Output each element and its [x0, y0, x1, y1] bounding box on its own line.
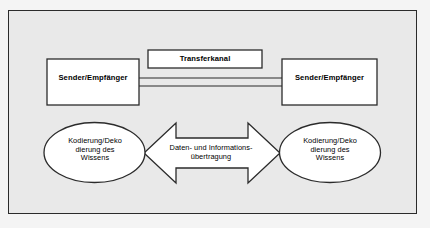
bidirectional-transfer-arrow[interactable]	[144, 123, 280, 183]
diagram-page: Transferkanal Sender/Empfänger Sender/Em…	[0, 0, 430, 228]
kodierung-ellipse-left[interactable]	[44, 123, 145, 183]
sender-empfaenger-right-box[interactable]	[282, 59, 377, 105]
sender-empfaenger-left-box[interactable]	[47, 59, 139, 105]
kodierung-ellipse-right[interactable]	[280, 123, 381, 183]
diagram-canvas	[0, 0, 430, 228]
transferkanal-box[interactable]	[148, 50, 262, 68]
